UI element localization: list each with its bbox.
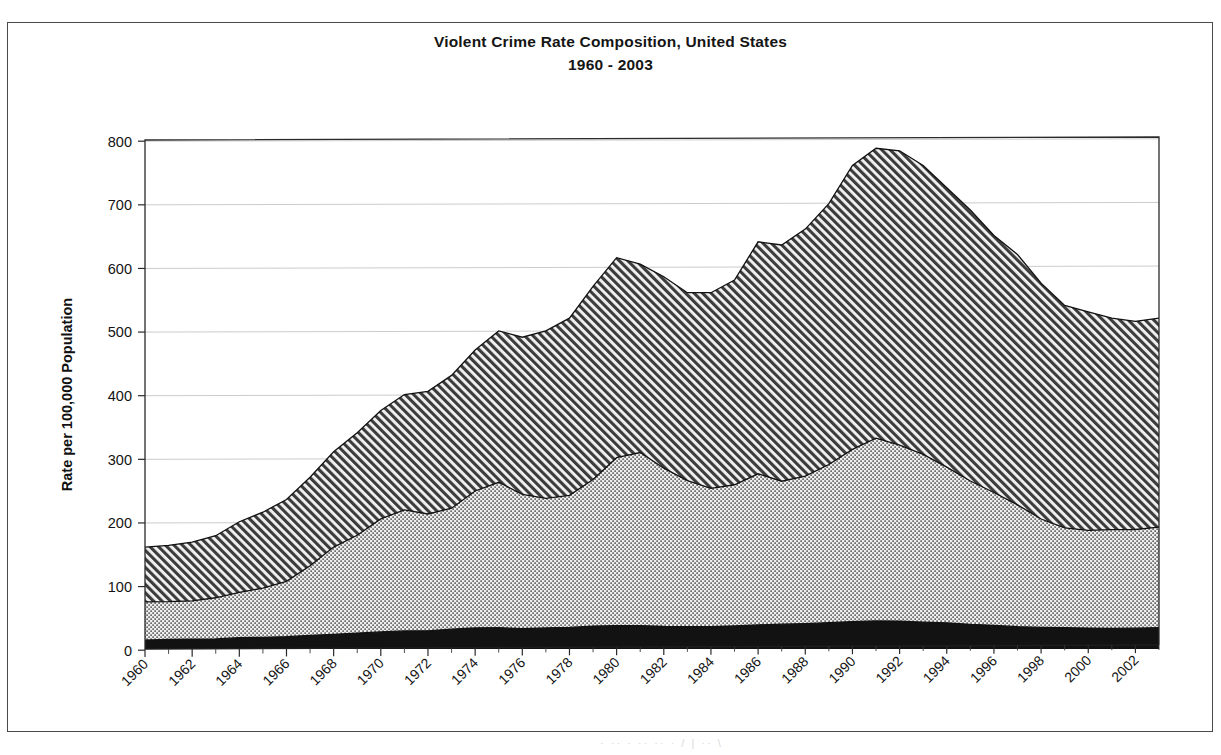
plot-area: 0100200300400500600700800 19601962196419… — [0, 0, 1221, 755]
x-tick-label: 1970 — [354, 655, 387, 688]
violent-crime-area-chart: Violent Crime Rate Composition, United S… — [0, 0, 1221, 755]
y-tick-label: 800 — [108, 134, 132, 150]
cut-off-caption-remnant: · ·· · ·· ·· · / | ·· \ — [600, 737, 1200, 751]
y-axis-title: Rate per 100,000 Population — [59, 298, 75, 491]
x-tick-label: 1998 — [1014, 652, 1047, 685]
y-tick-label: 100 — [108, 579, 132, 595]
y-tick-label: 200 — [108, 515, 132, 531]
x-tick-label: 1978 — [542, 654, 575, 687]
x-tick-label: 1992 — [872, 653, 905, 686]
y-tick-label: 400 — [108, 388, 132, 404]
y-axis-ticks: 0100200300400500600700800 — [108, 134, 145, 659]
x-tick-label: 1966 — [259, 655, 292, 688]
x-tick-label: 1982 — [637, 654, 670, 687]
y-tick-label: 300 — [108, 452, 132, 468]
x-tick-label: 1972 — [401, 655, 434, 688]
x-tick-label: 1962 — [165, 655, 198, 688]
x-tick-label: 1960 — [118, 656, 151, 689]
x-tick-label: 1986 — [731, 653, 764, 686]
y-axis-title-label: Rate per 100,000 Population — [59, 298, 75, 491]
x-tick-label: 2000 — [1061, 652, 1094, 685]
x-tick-label: 1996 — [967, 652, 1000, 685]
x-axis-ticks: 1960196219641966196819701972197419761978… — [118, 645, 1159, 689]
x-tick-label: 1988 — [778, 653, 811, 686]
y-tick-label: 500 — [108, 324, 132, 340]
x-tick-label: 1974 — [448, 654, 481, 687]
x-tick-label: 1976 — [495, 654, 528, 687]
x-tick-label: 1984 — [684, 653, 717, 686]
gridline — [145, 202, 1159, 204]
x-tick-label: 1994 — [920, 653, 953, 686]
x-tick-label: 1980 — [589, 654, 622, 687]
y-tick-label: 0 — [124, 643, 132, 659]
y-tick-label: 600 — [108, 261, 132, 277]
x-tick-label: 2002 — [1108, 652, 1141, 685]
x-tick-label: 1964 — [212, 655, 245, 688]
x-tick-label: 1968 — [306, 655, 339, 688]
x-tick-label: 1990 — [825, 653, 858, 686]
y-tick-label: 700 — [108, 197, 132, 213]
